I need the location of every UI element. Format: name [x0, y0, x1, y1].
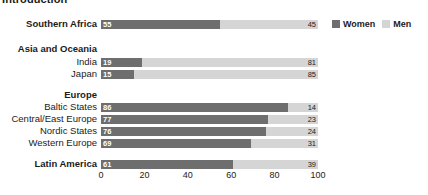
bar-track: 1981 — [101, 58, 318, 67]
bar-value-men: 81 — [308, 58, 316, 67]
x-axis-tick: 40 — [183, 170, 193, 181]
chart-group-header: Asia and Oceania — [0, 43, 428, 55]
bar-segment-men: 85 — [134, 70, 318, 79]
bar-segment-men: 14 — [288, 103, 318, 112]
bar-track: 5545 — [101, 20, 318, 29]
row-label: Asia and Oceania — [0, 43, 97, 55]
bar-value-men: 31 — [308, 139, 316, 148]
bar-segment-women: 76 — [101, 127, 266, 136]
bar-value-women: 15 — [103, 70, 111, 79]
chart-bar-row: Central/East Europe7723 — [0, 113, 428, 125]
bar-value-women: 69 — [103, 139, 111, 148]
stacked-bar-chart: Introduction Southern Africa5545Asia and… — [0, 0, 428, 195]
legend-item-women: Women — [332, 19, 375, 29]
legend-swatch-men-icon — [382, 20, 390, 28]
bar-track: 1585 — [101, 70, 318, 79]
legend-label-men: Men — [393, 19, 411, 29]
bar-track: 6931 — [101, 139, 318, 148]
bar-segment-women: 69 — [101, 139, 251, 148]
bar-track: 6139 — [101, 160, 318, 169]
row-label: Central/East Europe — [0, 113, 97, 125]
row-label: Japan — [0, 68, 97, 80]
bar-value-men: 39 — [308, 160, 316, 169]
bar-segment-women: 15 — [101, 70, 134, 79]
row-label: Western Europe — [0, 137, 97, 149]
bar-value-women: 55 — [103, 20, 111, 29]
chart-group-header: Europe — [0, 89, 428, 101]
bar-value-men: 85 — [308, 70, 316, 79]
bar-segment-women: 55 — [101, 20, 220, 29]
bar-segment-men: 24 — [266, 127, 318, 136]
chart-legend: Women Men — [332, 19, 411, 29]
bar-track: 7624 — [101, 127, 318, 136]
chart-bar-row: Western Europe6931 — [0, 137, 428, 149]
bar-value-women: 86 — [103, 103, 111, 112]
chart-bar-row: Nordic States7624 — [0, 125, 428, 137]
x-axis-tick: 100 — [310, 170, 325, 181]
bar-value-women: 61 — [103, 160, 111, 169]
bar-value-women: 19 — [103, 58, 111, 67]
bar-segment-men: 23 — [268, 115, 318, 124]
bar-track: 8614 — [101, 103, 318, 112]
x-axis-tick: 60 — [226, 170, 236, 181]
x-axis-tick: 80 — [270, 170, 280, 181]
row-label: Nordic States — [0, 125, 97, 137]
row-label: Baltic States — [0, 101, 97, 113]
legend-item-men: Men — [382, 19, 411, 29]
legend-label-women: Women — [343, 19, 375, 29]
bar-value-women: 77 — [103, 115, 111, 124]
bar-track: 7723 — [101, 115, 318, 124]
x-axis: 020406080100 — [101, 170, 318, 184]
bar-segment-men: 81 — [142, 58, 318, 67]
x-axis-tick: 0 — [98, 170, 103, 181]
bar-segment-women: 61 — [101, 160, 233, 169]
bar-segment-women: 77 — [101, 115, 268, 124]
chart-title: Introduction — [2, 0, 67, 5]
chart-bar-row: Baltic States8614 — [0, 101, 428, 113]
bar-segment-men: 45 — [220, 20, 318, 29]
bar-segment-women: 86 — [101, 103, 288, 112]
x-axis-tick: 20 — [139, 170, 149, 181]
row-label: Southern Africa — [0, 18, 97, 30]
bar-segment-men: 31 — [251, 139, 318, 148]
chart-bar-row: Latin America6139 — [0, 158, 428, 170]
legend-swatch-women-icon — [332, 20, 340, 28]
chart-bar-row: India1981 — [0, 56, 428, 68]
row-label: India — [0, 56, 97, 68]
bar-value-women: 76 — [103, 127, 111, 136]
bar-value-men: 23 — [308, 115, 316, 124]
row-label: Latin America — [0, 158, 97, 170]
bar-segment-men: 39 — [233, 160, 318, 169]
bar-value-men: 14 — [308, 103, 316, 112]
bar-value-men: 45 — [308, 20, 316, 29]
bar-value-men: 24 — [308, 127, 316, 136]
row-label: Europe — [0, 89, 97, 101]
bar-segment-women: 19 — [101, 58, 142, 67]
chart-bar-row: Japan1585 — [0, 68, 428, 80]
